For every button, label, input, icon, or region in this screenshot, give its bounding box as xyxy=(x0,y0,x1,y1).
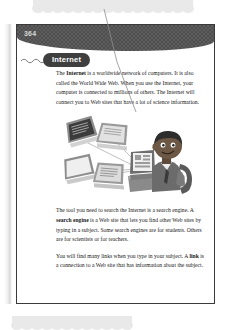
paragraph-2: The tool you need to search the Internet… xyxy=(56,206,206,244)
page-number: 364 xyxy=(24,30,36,37)
cloud-scallops xyxy=(12,321,132,330)
monitor-icon xyxy=(64,115,101,148)
monitor-icon xyxy=(92,161,127,192)
student-figure xyxy=(152,131,185,192)
textbook-page: 364 Internet The Internet is a worldwide… xyxy=(16,24,215,304)
paragraph-3: You will find many links when you type i… xyxy=(56,252,206,271)
monitor-icon xyxy=(95,121,131,153)
page-edge-strip xyxy=(4,24,12,304)
monitor-icon xyxy=(62,154,97,185)
body-column: The Internet is a worldwide network of c… xyxy=(56,69,206,278)
paragraph-1: The Internet is a worldwide network of c… xyxy=(56,69,206,107)
cloud-decoration-top xyxy=(33,0,193,9)
illustration-networked-computers xyxy=(56,114,206,200)
section-title-pill: Internet xyxy=(43,53,90,67)
page-header-band: 364 xyxy=(17,25,214,51)
cloud-scallops xyxy=(33,4,193,13)
cloud-decoration-bottom xyxy=(12,316,132,326)
